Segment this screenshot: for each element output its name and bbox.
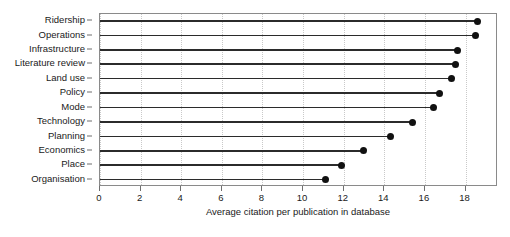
x-tick-label: 18 [459,192,470,203]
y-tick-label: Land use [46,73,85,83]
lollipop-row [100,58,496,70]
lollipop-stem [100,164,342,166]
y-tick-mark [87,106,92,107]
x-tick-mark [424,186,425,191]
y-tick-label: Planning [48,131,85,141]
lollipop-row [100,87,496,99]
data-point-marker [387,133,394,140]
lollipop-stem [100,136,390,138]
data-point-marker [452,61,459,68]
series-lollipops [100,14,496,185]
lollipop-stem [100,78,451,80]
y-tick-label: Infrastructure [29,44,85,54]
lollipop-stem [100,35,476,37]
lollipop-row [100,102,496,114]
y-tick-mark [87,49,92,50]
lollipop-row [100,174,496,185]
lollipop-stem [100,121,413,123]
plot-area [99,13,497,186]
y-tick-mark [87,149,92,150]
x-tick-label: 4 [178,192,183,203]
x-tick-label: 16 [419,192,430,203]
data-point-marker [322,176,329,183]
y-tick-label: Economics [39,145,85,155]
y-tick-mark [87,135,92,136]
x-tick-mark [383,186,384,191]
data-point-marker [409,119,416,126]
x-tick-label: 0 [96,192,101,203]
y-tick-mark [87,63,92,64]
x-tick-mark [343,186,344,191]
data-point-marker [472,32,479,39]
x-tick-mark [465,186,466,191]
y-tick-label: Ridership [45,15,85,25]
lollipop-row [100,30,496,42]
x-tick-mark [99,186,100,191]
y-axis: RidershipOperationsInfrastructureLiterat… [0,13,92,186]
data-point-marker [430,104,437,111]
x-tick-label: 6 [218,192,223,203]
y-tick-mark [87,178,92,179]
lollipop-stem [100,20,478,22]
y-tick-label: Organisation [31,174,85,184]
lollipop-stem [100,92,439,94]
data-point-marker [448,75,455,82]
y-tick-mark [87,77,92,78]
lollipop-row [100,131,496,143]
x-tick-label: 10 [297,192,308,203]
lollipop-row [100,73,496,85]
lollipop-stem [100,179,325,181]
data-point-marker [474,18,481,25]
y-tick-mark [87,92,92,93]
lollipop-stem [100,107,433,109]
y-tick-label: Literature review [15,58,85,68]
lollipop-row [100,159,496,171]
data-point-marker [360,147,367,154]
chart-figure: RidershipOperationsInfrastructureLiterat… [0,0,510,237]
lollipop-stem [100,150,364,152]
x-axis-title: Average citation per publication in data… [99,206,497,217]
x-tick-mark [302,186,303,191]
y-tick-label: Mode [61,102,85,112]
lollipop-row [100,44,496,56]
lollipop-row [100,116,496,128]
y-tick-mark [87,121,92,122]
y-tick-label: Place [61,159,85,169]
y-tick-mark [87,164,92,165]
data-point-marker [436,90,443,97]
y-tick-label: Technology [37,116,85,126]
x-tick-label: 12 [337,192,348,203]
lollipop-row [100,15,496,27]
data-point-marker [338,162,345,169]
x-tick-label: 8 [259,192,264,203]
lollipop-stem [100,49,457,51]
y-tick-mark [87,34,92,35]
y-tick-label: Policy [60,87,85,97]
x-tick-label: 2 [137,192,142,203]
data-point-marker [454,47,461,54]
x-tick-mark [180,186,181,191]
x-tick-mark [140,186,141,191]
y-tick-mark [87,20,92,21]
x-tick-mark [261,186,262,191]
lollipop-stem [100,63,455,65]
x-tick-mark [221,186,222,191]
lollipop-row [100,145,496,157]
x-tick-label: 14 [378,192,389,203]
y-tick-label: Operations [39,30,85,40]
